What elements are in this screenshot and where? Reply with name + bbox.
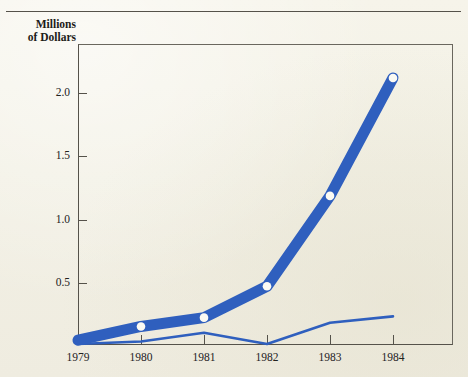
y-tick-mark-0.5 <box>78 283 87 284</box>
x-tick-mark-1980 <box>141 335 142 344</box>
x-tick-mark-1983 <box>330 335 331 344</box>
y-tick-mark-1.0 <box>78 220 87 221</box>
x-tick-mark-1981 <box>204 335 205 344</box>
x-tick-label-1979: 1979 <box>48 351 108 363</box>
y-axis-title-line1: Millions <box>10 18 76 31</box>
x-tick-mark-1984 <box>393 335 394 344</box>
y-tick-mark-2.0 <box>78 93 87 94</box>
y-tick-label-2.0: 2.0 <box>24 86 70 98</box>
x-tick-label-1982: 1982 <box>237 351 297 363</box>
top-horizontal-rule <box>6 11 461 12</box>
y-tick-label-0.5: 0.5 <box>24 276 70 288</box>
cut-off-header-text <box>6 0 461 10</box>
y-tick-label-1.0: 1.0 <box>24 213 70 225</box>
plot-frame <box>78 44 453 345</box>
x-tick-label-1983: 1983 <box>300 351 360 363</box>
y-axis-title-line2: of Dollars <box>10 31 76 44</box>
x-tick-label-1984: 1984 <box>363 351 423 363</box>
x-tick-label-1980: 1980 <box>111 351 171 363</box>
chart-page: Millions of Dollars 2.0 1.5 1.0 0.5 1979… <box>0 0 468 377</box>
x-tick-label-1981: 1981 <box>174 351 234 363</box>
y-tick-label-1.5: 1.5 <box>24 149 70 161</box>
y-axis-title: Millions of Dollars <box>10 18 76 44</box>
y-tick-mark-1.5 <box>78 156 87 157</box>
x-tick-mark-1982 <box>267 335 268 344</box>
